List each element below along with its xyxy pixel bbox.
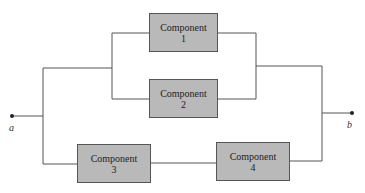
component-1-title: Component bbox=[160, 22, 207, 33]
component-2-box: Component 2 bbox=[149, 79, 218, 118]
component-2-number: 2 bbox=[181, 99, 186, 110]
component-1-number: 1 bbox=[181, 33, 186, 44]
terminal-a-label: a bbox=[9, 122, 14, 133]
component-4-title: Component bbox=[230, 151, 277, 162]
component-3-box: Component 3 bbox=[77, 144, 151, 183]
component-3-title: Component bbox=[91, 153, 138, 164]
component-2-title: Component bbox=[160, 88, 207, 99]
component-4-number: 4 bbox=[251, 162, 256, 173]
terminal-b-dot bbox=[350, 111, 354, 115]
terminal-b-label: b bbox=[347, 119, 352, 130]
component-1-box: Component 1 bbox=[149, 13, 218, 52]
terminal-a-dot bbox=[10, 114, 14, 118]
component-4-box: Component 4 bbox=[216, 142, 290, 181]
component-3-number: 3 bbox=[112, 164, 117, 175]
